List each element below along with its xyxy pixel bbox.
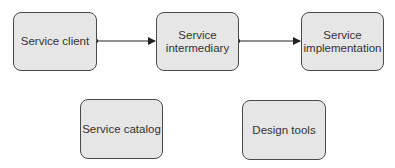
node-service-implementation: Service implementation: [301, 12, 384, 71]
node-design-tools: Design tools: [242, 100, 326, 160]
node-label: Design tools: [252, 124, 315, 137]
node-label: Service catalog: [82, 123, 161, 136]
node-service-catalog: Service catalog: [80, 99, 163, 159]
node-label: Service intermediary: [166, 29, 229, 55]
node-service-client: Service client: [13, 12, 97, 71]
node-label: Service implementation: [304, 29, 382, 55]
node-service-intermediary: Service intermediary: [156, 12, 239, 71]
edge-client-to-intermediary: [94, 39, 155, 43]
edge-intermediary-to-implementation: [236, 39, 300, 43]
node-label: Service client: [21, 35, 89, 48]
